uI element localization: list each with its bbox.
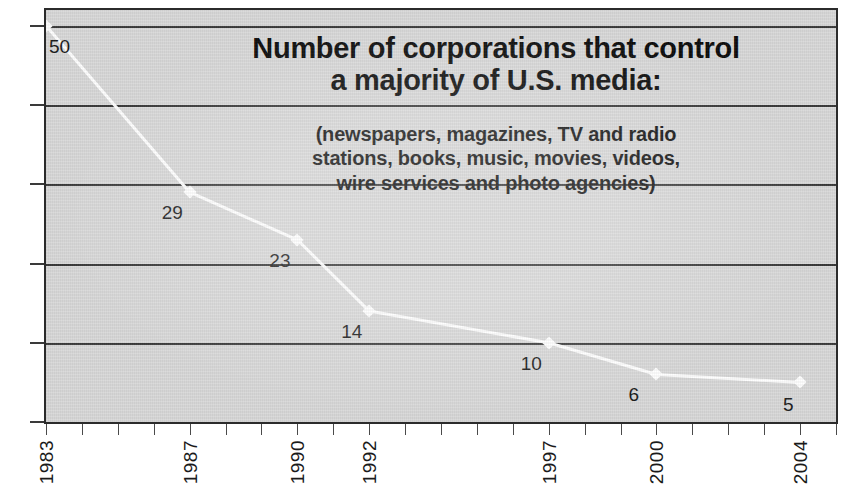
x-axis-tick-mark xyxy=(836,424,837,435)
x-axis-tick-label: 1983 xyxy=(36,440,58,484)
data-point-label: 14 xyxy=(341,321,362,343)
x-axis-tick-label: 1997 xyxy=(539,440,561,484)
data-point-label: 6 xyxy=(628,384,639,406)
x-axis-tick-mark xyxy=(118,424,119,435)
x-axis-tick-mark xyxy=(333,424,334,435)
x-axis-tick-mark xyxy=(190,424,191,435)
data-point-label: 29 xyxy=(162,202,183,224)
chart-subtitle-line-2: stations, books, music, movies, videos, xyxy=(196,146,796,170)
x-axis-tick-mark xyxy=(585,424,586,435)
chart-title: Number of corporations that control a ma… xyxy=(166,32,826,97)
x-axis-tick-label: 1987 xyxy=(180,440,202,484)
chart-subtitle: (newspapers, magazines, TV and radio sta… xyxy=(196,122,796,195)
x-axis-tick-mark xyxy=(728,424,729,435)
x-axis-tick-mark xyxy=(441,424,442,435)
x-axis-tick-mark xyxy=(226,424,227,435)
x-axis-tick-mark xyxy=(261,424,262,435)
x-axis-tick-mark xyxy=(656,424,657,435)
x-axis-tick-mark xyxy=(692,424,693,435)
x-axis-tick-label: 1990 xyxy=(287,440,309,484)
chart-figure: 01020304050 502923141065 Number of corpo… xyxy=(0,0,845,488)
x-axis-tick-mark xyxy=(46,424,47,435)
x-axis-tick-label: 1992 xyxy=(359,440,381,484)
data-point-label: 50 xyxy=(49,36,70,58)
chart-title-line-2: a majority of U.S. media: xyxy=(166,64,826,96)
plot-area: 502923141065 Number of corporations that… xyxy=(44,8,838,424)
x-axis-tick-mark xyxy=(477,424,478,435)
data-point-label: 10 xyxy=(521,353,542,375)
x-axis-tick-mark xyxy=(800,424,801,435)
x-axis-tick-mark xyxy=(369,424,370,435)
chart-subtitle-line-1: (newspapers, magazines, TV and radio xyxy=(196,122,796,146)
x-axis-tick-label: 2000 xyxy=(646,440,668,484)
data-point-label: 23 xyxy=(269,250,290,272)
x-axis-tick-label: 2004 xyxy=(790,440,812,484)
x-axis-tick-mark xyxy=(621,424,622,435)
x-axis-tick-mark xyxy=(154,424,155,435)
x-axis-tick-mark xyxy=(764,424,765,435)
x-axis-tick-mark xyxy=(82,424,83,435)
x-axis-tick-mark xyxy=(549,424,550,435)
x-axis-tick-mark xyxy=(405,424,406,435)
chart-subtitle-line-3: wire services and photo agencies) xyxy=(196,171,796,195)
chart-title-line-1: Number of corporations that control xyxy=(166,32,826,64)
data-point-label: 5 xyxy=(783,394,794,416)
x-axis-tick-mark xyxy=(297,424,298,435)
x-axis-tick-mark xyxy=(513,424,514,435)
